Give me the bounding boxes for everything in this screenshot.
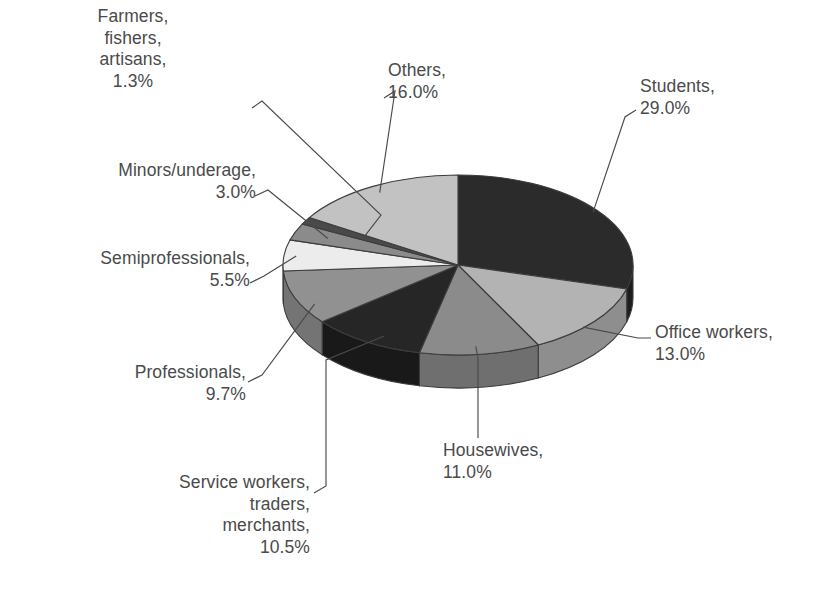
label-minors-line-1: 3.0% bbox=[8, 182, 256, 204]
leader-others bbox=[380, 91, 395, 193]
label-farmers: Farmers,fishers,artisans,1.3% bbox=[18, 6, 248, 92]
label-farmers-line-3: 1.3% bbox=[18, 71, 248, 93]
label-others-line-0: Others, bbox=[388, 60, 538, 82]
label-students: Students,29.0% bbox=[640, 76, 815, 119]
label-office-workers-line-1: 13.0% bbox=[655, 344, 815, 366]
label-service-workers-line-1: traders, bbox=[120, 494, 310, 516]
label-students-line-0: Students, bbox=[640, 76, 815, 98]
label-service-workers-line-2: merchants, bbox=[120, 515, 310, 537]
label-students-line-1: 29.0% bbox=[640, 98, 815, 120]
label-office-workers-line-0: Office workers, bbox=[655, 322, 815, 344]
label-semiprofessionals: Semiprofessionals,5.5% bbox=[0, 248, 250, 291]
label-others-line-1: 16.0% bbox=[388, 82, 538, 104]
label-minors: Minors/underage,3.0% bbox=[8, 160, 256, 203]
label-office-workers: Office workers,13.0% bbox=[655, 322, 815, 365]
leader-students bbox=[593, 110, 636, 212]
label-farmers-line-1: fishers, bbox=[18, 28, 248, 50]
label-others: Others,16.0% bbox=[388, 60, 538, 103]
label-service-workers-line-3: 10.5% bbox=[120, 537, 310, 559]
label-minors-line-0: Minors/underage, bbox=[8, 160, 256, 182]
label-housewives-line-1: 11.0% bbox=[443, 462, 643, 484]
label-semiprofessionals-line-1: 5.5% bbox=[0, 270, 250, 292]
label-farmers-line-0: Farmers, bbox=[18, 6, 248, 28]
label-service-workers: Service workers,traders,merchants,10.5% bbox=[120, 472, 310, 558]
label-professionals: Professionals,9.7% bbox=[30, 362, 246, 405]
chart-canvas: Students 29.0%Office workers 13.0%Housew… bbox=[0, 0, 815, 596]
label-service-workers-line-0: Service workers, bbox=[120, 472, 310, 494]
label-housewives-line-0: Housewives, bbox=[443, 440, 643, 462]
pie-top-slices: Students 29.0%Office workers 13.0%Housew… bbox=[283, 175, 633, 355]
label-housewives: Housewives,11.0% bbox=[443, 440, 643, 483]
label-semiprofessionals-line-0: Semiprofessionals, bbox=[0, 248, 250, 270]
label-professionals-line-0: Professionals, bbox=[30, 362, 246, 384]
label-professionals-line-1: 9.7% bbox=[30, 384, 246, 406]
label-farmers-line-2: artisans, bbox=[18, 49, 248, 71]
